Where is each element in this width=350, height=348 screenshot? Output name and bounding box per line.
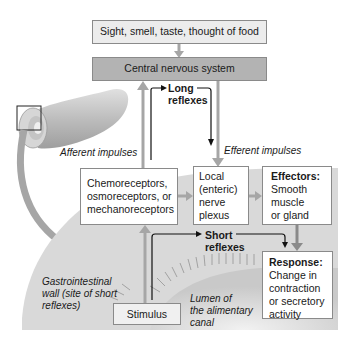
response-box: Response: Change in contraction or secre… [262, 251, 333, 319]
effectors-box: Effectors: Smooth muscle or gland [262, 166, 332, 225]
sensory-input-box: Sight, smell, taste, thought of food [92, 20, 267, 44]
afferent-impulses-label: Afferent impulses [60, 147, 137, 159]
cns-box: Central nervous system [92, 57, 267, 81]
long-reflexes-label: Long reflexes [168, 82, 208, 106]
receptors-box: Chemoreceptors, osmoreceptors, or mechan… [80, 168, 178, 225]
cns-label: Central nervous system [124, 62, 234, 74]
short-reflexes-label: Short reflexes [205, 229, 245, 253]
sensory-input-label: Sight, smell, taste, thought of food [100, 25, 259, 37]
lumen-label: Lumen of the alimentary canal [190, 293, 253, 329]
gi-wall-label: Gastrointestinal wall (site of short ref… [42, 276, 117, 312]
gi-tube-illustration [17, 89, 128, 149]
stimulus-box: Stimulus [113, 303, 181, 325]
efferent-impulses-label: Efferent impulses [224, 145, 301, 157]
enteric-plexus-box: Local (enteric) nerve plexus [193, 166, 249, 225]
